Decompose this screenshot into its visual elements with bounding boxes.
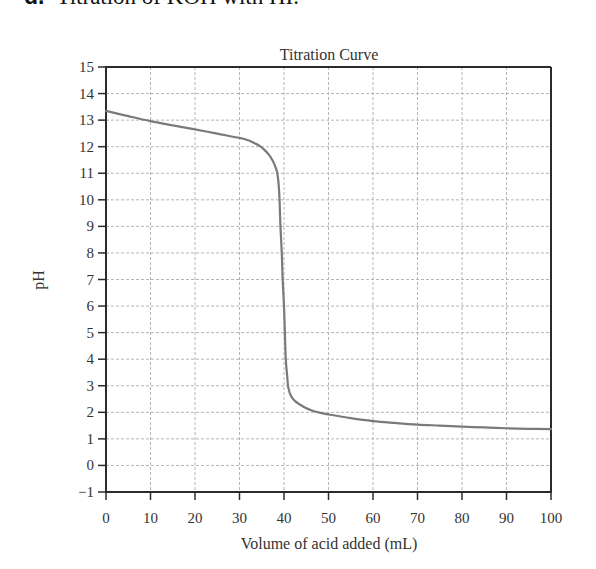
y-tick-label: 2: [87, 404, 95, 420]
chart-title: Titration Curve: [280, 46, 379, 63]
y-axis-label: pH: [30, 270, 48, 290]
y-tick-label: 7: [87, 272, 95, 288]
x-tick-label: 40: [277, 510, 292, 526]
y-tick-label: 13: [79, 112, 94, 128]
y-tick-label: 10: [79, 192, 94, 208]
x-tick-label: 100: [540, 510, 563, 526]
y-tick-label: 11: [80, 165, 94, 181]
x-tick-label: 90: [499, 510, 514, 526]
x-tick-label: 80: [455, 510, 470, 526]
y-tick-label: 1: [87, 431, 95, 447]
x-tick-label: 10: [143, 510, 158, 526]
y-tick-label: 15: [79, 59, 94, 75]
y-tick-label: 14: [79, 86, 95, 102]
y-tick-label: 9: [87, 218, 95, 234]
y-tick-label: 4: [87, 351, 95, 367]
y-tick-label: −1: [78, 484, 94, 500]
y-tick-label: 3: [87, 378, 95, 394]
y-tick-label: 5: [87, 325, 95, 341]
y-tick-label: 6: [87, 298, 95, 314]
x-tick-label: 0: [102, 510, 110, 526]
y-tick-label: 0: [87, 457, 95, 473]
x-axis-label: Volume of acid added (mL): [241, 535, 418, 553]
y-tick-label: 8: [87, 245, 95, 261]
x-tick-label: 20: [188, 510, 203, 526]
y-tick-label: 12: [79, 139, 94, 155]
x-tick-label: 60: [366, 510, 381, 526]
x-tick-label: 70: [410, 510, 425, 526]
titration-chart: 0102030405060708090100−10123456789101112…: [0, 0, 596, 569]
x-tick-label: 50: [321, 510, 336, 526]
x-tick-label: 30: [232, 510, 247, 526]
